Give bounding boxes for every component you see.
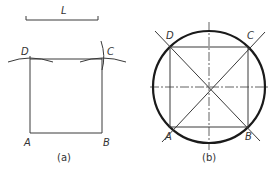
length-bar xyxy=(26,16,98,20)
figure-b: D C A B (b) xyxy=(150,22,269,163)
length-label: L xyxy=(61,5,67,16)
caption-b: (b) xyxy=(202,152,216,163)
geometry-figure: L D C A B (a) D C A B (b) xyxy=(0,0,274,173)
vertex-c-label: C xyxy=(247,30,254,41)
vertex-c-label: C xyxy=(107,46,114,57)
vertex-d-label: D xyxy=(166,30,174,41)
vertex-a-label: A xyxy=(23,137,31,148)
vertex-a-label: A xyxy=(164,131,172,142)
vertex-b-label: B xyxy=(245,131,252,142)
vertex-b-label: B xyxy=(103,137,110,148)
figure-a: L D C A B (a) xyxy=(8,5,126,163)
vertex-d-label: D xyxy=(21,46,29,57)
caption-a: (a) xyxy=(57,152,71,163)
